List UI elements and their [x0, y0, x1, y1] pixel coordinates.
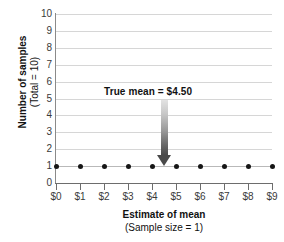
- x-tick: [248, 184, 249, 190]
- y-axis-title: Number of samples (Total = 10): [17, 2, 41, 162]
- data-point: [102, 164, 107, 169]
- x-axis-line: [55, 183, 273, 184]
- x-tick-label: $1: [67, 191, 93, 202]
- true-mean-arrow-head: [157, 155, 171, 166]
- data-point: [78, 164, 83, 169]
- data-point: [270, 164, 275, 169]
- x-tick: [224, 184, 225, 190]
- series-baseline: [56, 166, 272, 167]
- x-tick: [128, 184, 129, 190]
- data-point: [150, 164, 155, 169]
- gridline-8: [56, 48, 272, 49]
- data-point: [198, 164, 203, 169]
- x-tick-label: $8: [235, 191, 261, 202]
- x-tick-label: $4: [139, 191, 165, 202]
- true-mean-annotation-label: True mean = $4.50: [104, 86, 192, 98]
- x-tick: [104, 184, 105, 190]
- chart-figure: 10 9 8 7 6 5 4 3 2 1 0 $0 $1 $2 $3 $4 $5…: [0, 0, 284, 242]
- gridline-10: [56, 14, 272, 15]
- gridline-7: [56, 65, 272, 66]
- gridline-6: [56, 82, 272, 83]
- x-tick-label: $7: [211, 191, 237, 202]
- x-tick-label: $5: [163, 191, 189, 202]
- x-tick: [56, 184, 57, 190]
- x-tick: [200, 184, 201, 190]
- x-axis-title: Estimate of mean (Sample size = 1): [56, 208, 272, 234]
- true-mean-arrow-shaft: [161, 100, 168, 155]
- x-tick: [152, 184, 153, 190]
- gridline-9: [56, 31, 272, 32]
- y-axis-title-main: Number of samples: [17, 2, 29, 162]
- y-axis-line: [55, 13, 56, 184]
- y-tick-label: 0: [30, 178, 52, 188]
- data-point: [246, 164, 251, 169]
- data-point: [222, 164, 227, 169]
- y-axis-title-sub: (Total = 10): [29, 2, 41, 162]
- data-point: [54, 164, 59, 169]
- x-tick-label: $2: [91, 191, 117, 202]
- x-tick: [176, 184, 177, 190]
- data-point: [174, 164, 179, 169]
- x-axis-title-main: Estimate of mean: [56, 208, 272, 221]
- x-axis-title-sub: (Sample size = 1): [56, 221, 272, 234]
- y-tick-label: 1: [30, 161, 52, 171]
- x-tick-label: $3: [115, 191, 141, 202]
- x-tick-label: $9: [259, 191, 284, 202]
- x-tick: [272, 184, 273, 190]
- x-tick: [80, 184, 81, 190]
- x-tick-label: $6: [187, 191, 213, 202]
- data-point: [126, 164, 131, 169]
- x-tick-label: $0: [43, 191, 69, 202]
